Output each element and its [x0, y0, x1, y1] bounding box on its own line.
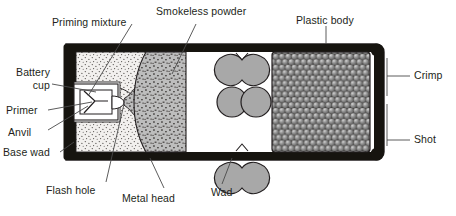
- label-flash-hole: Flash hole: [46, 184, 95, 196]
- powder-column: [134, 52, 186, 152]
- label-wad: Wad: [211, 186, 233, 198]
- label-base-wad: Base wad: [3, 146, 50, 158]
- label-metal-head: Metal head: [122, 192, 175, 204]
- shot: [272, 52, 370, 152]
- diagram-canvas: Priming mixture Smokeless powder Plastic…: [0, 0, 456, 216]
- leader-shot: [387, 104, 410, 146]
- leader-crimp: [387, 58, 410, 96]
- label-anvil: Anvil: [8, 126, 31, 138]
- label-plastic-body: Plastic body: [296, 14, 354, 26]
- label-primer: Primer: [6, 104, 38, 116]
- label-crimp: Crimp: [414, 69, 443, 81]
- label-shot: Shot: [414, 133, 436, 145]
- primer-cup: [80, 90, 112, 114]
- label-battery-cup-line1: Battery: [0, 66, 50, 78]
- label-battery-cup-line2: cup: [0, 79, 50, 91]
- label-smokeless-powder: Smokeless powder: [156, 5, 246, 17]
- leader-metal-head: [150, 158, 164, 188]
- label-priming-mixture: Priming mixture: [52, 16, 126, 28]
